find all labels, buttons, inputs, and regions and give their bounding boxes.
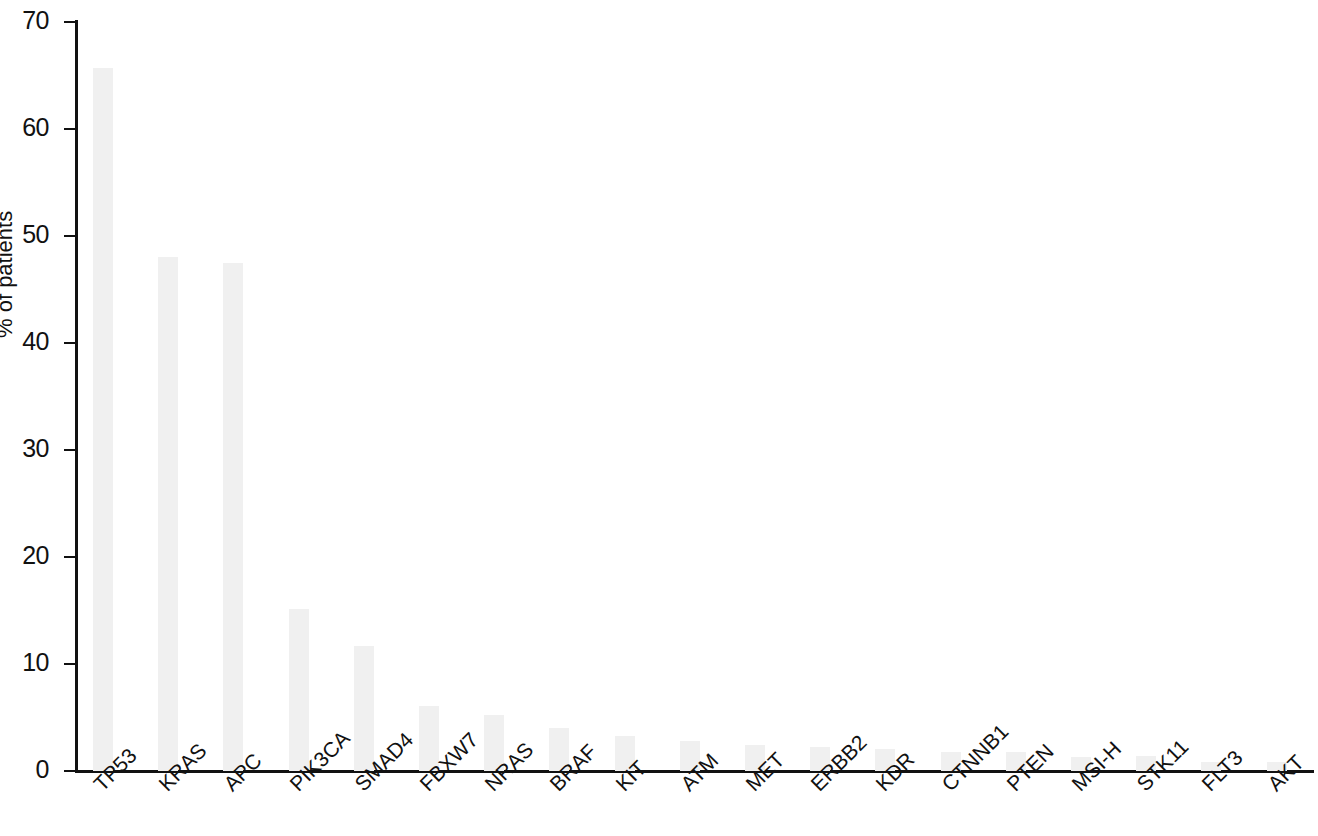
y-tick-70	[64, 21, 75, 23]
y-tick-label-50: 50	[3, 220, 49, 249]
y-tick-label-60: 60	[3, 113, 49, 142]
bar-pik3ca[interactable]	[289, 609, 309, 771]
y-tick-40	[64, 342, 75, 344]
y-tick-30	[64, 449, 75, 451]
bar-chart-figure: % of patients 010203040506070 TP53KRASAP…	[0, 0, 1318, 836]
y-tick-label-10: 10	[3, 648, 49, 677]
y-tick-label-0: 0	[3, 755, 49, 784]
bars-layer	[77, 22, 1314, 771]
y-tick-label-40: 40	[3, 327, 49, 356]
bar-tp53[interactable]	[93, 68, 113, 771]
bar-smad4[interactable]	[354, 646, 374, 771]
bar-apc[interactable]	[223, 263, 243, 771]
y-tick-0	[64, 770, 75, 772]
y-tick-50	[64, 235, 75, 237]
bar-kras[interactable]	[158, 257, 178, 771]
y-tick-60	[64, 128, 75, 130]
y-tick-20	[64, 556, 75, 558]
y-tick-label-20: 20	[3, 541, 49, 570]
y-tick-label-30: 30	[3, 434, 49, 463]
y-tick-10	[64, 663, 75, 665]
y-tick-label-70: 70	[3, 6, 49, 35]
